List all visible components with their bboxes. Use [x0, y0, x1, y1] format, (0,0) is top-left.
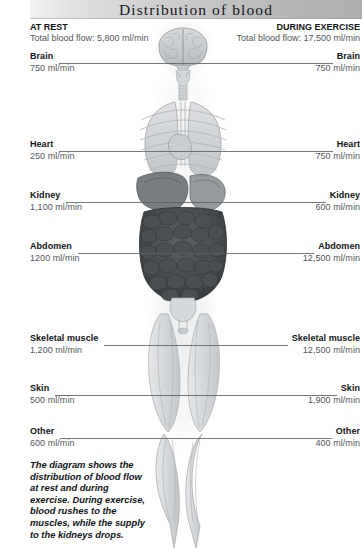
organ-label-rest: Heart: [30, 139, 53, 149]
organ-value-rest: 600 ml/min: [30, 438, 75, 448]
organ-label-rest: Skin: [30, 383, 49, 393]
organ-value-exercise: 12,500 ml/min: [303, 345, 360, 355]
leader-line-right: [176, 253, 314, 254]
leader-line-right: [176, 202, 326, 203]
leader-line-left: [78, 253, 176, 254]
during-exercise-heading: DURING EXERCISE: [276, 22, 360, 32]
organ-value-rest: 1,100 ml/min: [30, 202, 82, 212]
organ-value-rest: 1200 ml/min: [30, 253, 80, 263]
leader-line-right: [176, 438, 332, 439]
organ-value-rest: 250 ml/min: [30, 151, 75, 161]
organ-value-exercise: 400 ml/min: [315, 438, 360, 448]
at-rest-heading: AT REST: [30, 22, 68, 32]
organ-label-rest: Brain: [30, 51, 53, 61]
leader-line-left: [66, 202, 176, 203]
intestines-illustration: [134, 206, 232, 310]
page-title: Distribution of blood: [30, 0, 362, 19]
organ-label-exercise: Skin: [341, 383, 360, 393]
organ-label-exercise: Brain: [337, 51, 360, 61]
leader-line-left: [104, 345, 176, 346]
organ-label-rest: Other: [30, 426, 54, 436]
leader-line-right: [176, 151, 333, 152]
organ-value-exercise: 12,500 ml/min: [303, 253, 360, 263]
thigh-muscles-illustration: [138, 312, 230, 436]
title-bar: Distribution of blood: [30, 0, 362, 19]
organ-value-exercise: 750 ml/min: [315, 151, 360, 161]
organ-label-exercise: Abdomen: [318, 241, 360, 251]
organ-label-exercise: Other: [336, 426, 360, 436]
left-gutter: [0, 0, 30, 544]
organ-label-rest: Skeletal muscle: [30, 333, 98, 343]
organ-label-exercise: Kidney: [330, 190, 360, 200]
brain-illustration: [155, 26, 211, 72]
organ-value-exercise: 750 ml/min: [315, 63, 360, 73]
organ-label-exercise: Skeletal muscle: [292, 333, 360, 343]
leader-line-right: [176, 345, 288, 346]
leader-line-left: [59, 151, 176, 152]
during-exercise-total: Total blood flow: 17,500 ml/min: [236, 33, 360, 43]
figure-caption: The diagram shows the distribution of bl…: [30, 459, 145, 540]
organ-value-exercise: 600 ml/min: [315, 202, 360, 212]
organ-value-rest: 750 ml/min: [30, 63, 75, 73]
leader-line-left: [59, 63, 176, 64]
leader-line-right: [176, 63, 333, 64]
organ-label-exercise: Heart: [337, 139, 360, 149]
organ-label-rest: Kidney: [30, 190, 60, 200]
organ-label-rest: Abdomen: [30, 241, 72, 251]
organ-value-rest: 500 ml/min: [30, 395, 75, 405]
at-rest-total: Total blood flow: 5,800 ml/min: [30, 33, 149, 43]
calf-muscles-illustration: [146, 432, 222, 550]
leader-line-left: [60, 438, 176, 439]
organ-value-rest: 1,200 ml/min: [30, 345, 82, 355]
organ-value-exercise: 1,900 ml/min: [308, 395, 360, 405]
